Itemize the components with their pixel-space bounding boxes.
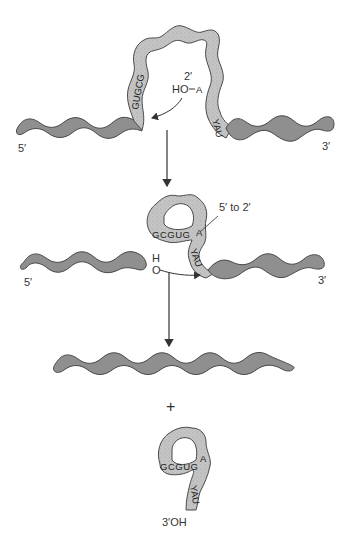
label-h: H — [152, 252, 160, 264]
exon-1-left — [16, 117, 142, 138]
label-o: O — [152, 264, 161, 276]
label-5-prime: 5′ — [18, 142, 26, 154]
branch-point-a: A — [196, 84, 203, 95]
exon-1-cleaved — [20, 252, 146, 273]
exon-2-attached — [208, 254, 324, 279]
label-2-prime: 2′ — [184, 70, 192, 82]
lariat-seq: GCGUG — [160, 461, 198, 472]
label-5-to-2: 5′ to 2′ — [219, 201, 251, 213]
attack-arrow-icon — [152, 98, 182, 118]
branch-point-a: A — [200, 453, 207, 464]
label-3-prime: 3′ — [322, 140, 330, 152]
splicing-diagram: GUGCG YAU 2′ HO A 5′ 3′ GCGUG A YAU 5′ t… — [0, 0, 348, 544]
label-3-prime: 3′ — [318, 274, 326, 286]
stage-2-lariat-intermediate: GCGUG A YAU 5′ to 2′ H O 5′ 3′ — [20, 195, 326, 288]
plus-sign: + — [166, 398, 175, 415]
stage-1-pre-mrna: GUGCG YAU 2′ HO A 5′ 3′ — [16, 26, 334, 154]
label-5-prime: 5′ — [24, 276, 32, 288]
exon-2-right — [226, 116, 334, 142]
spliced-exons — [54, 352, 295, 374]
stage-3-products: + GCGUG A YAU 3′OH — [54, 352, 295, 528]
label-ho: HO — [172, 83, 189, 95]
label-3-oh: 3′OH — [162, 516, 187, 528]
branch-point-a: A — [196, 227, 203, 238]
lariat-seq: GCGUG — [152, 229, 190, 240]
